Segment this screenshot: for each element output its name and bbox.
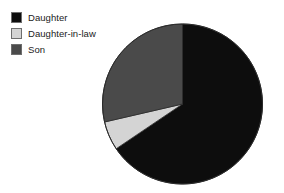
legend-label-daughter-in-law: Daughter-in-law xyxy=(28,28,96,39)
legend-label-daughter: Daughter xyxy=(28,12,67,23)
chart-canvas: Daughter Daughter-in-law Son xyxy=(0,0,284,193)
legend-label-son: Son xyxy=(28,44,45,55)
legend-swatch-daughter-in-law xyxy=(11,28,22,39)
legend-swatch-daughter xyxy=(11,12,22,23)
legend-item-daughter-in-law[interactable]: Daughter-in-law xyxy=(11,25,129,41)
legend-item-daughter[interactable]: Daughter xyxy=(11,9,129,25)
legend-swatch-son xyxy=(11,44,22,55)
chart-legend: Daughter Daughter-in-law Son xyxy=(11,9,129,57)
legend-item-son[interactable]: Son xyxy=(11,41,129,57)
